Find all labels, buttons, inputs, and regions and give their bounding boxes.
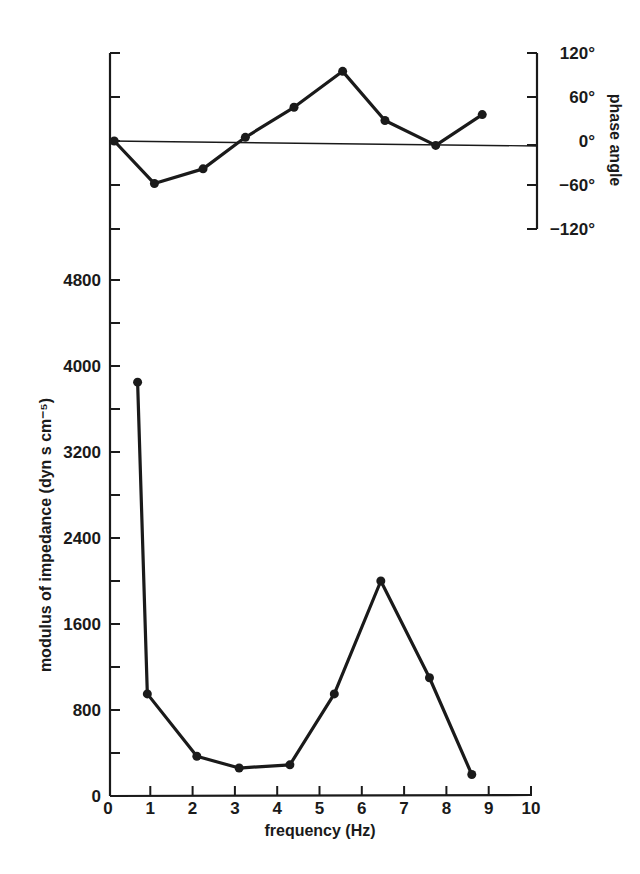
phase-line [114, 71, 482, 183]
modulus-tick-label: 800 [73, 701, 101, 720]
frequency-tick-label: 3 [230, 799, 239, 818]
data-point [235, 764, 244, 773]
data-point [380, 116, 389, 125]
frequency-tick-label: 10 [522, 799, 541, 818]
frequency-tick-label: 9 [484, 799, 493, 818]
data-point [192, 752, 201, 761]
frequency-tick-label: 1 [146, 799, 155, 818]
modulus-line [138, 382, 472, 774]
phase-tick-label: −60° [559, 176, 595, 195]
y-axis-title-modulus: modulus of impedance (dyn s cm⁻⁵) [37, 398, 54, 672]
modulus-tick-label: 0 [92, 787, 101, 806]
frequency-tick-label: 4 [272, 799, 282, 818]
data-point [425, 673, 434, 682]
data-point [431, 141, 440, 150]
data-point [199, 164, 208, 173]
impedance-chart: 120°60°0°−60°−120° 080016002400320040004… [0, 0, 640, 874]
frequency-tick-label: 6 [357, 799, 366, 818]
modulus-tick-label: 2400 [63, 529, 101, 548]
y-axis-title-phase: phase angle [607, 94, 624, 187]
modulus-tick-label: 1600 [63, 615, 101, 634]
zero-reference-line [110, 141, 537, 146]
frequency-tick-label: 5 [315, 799, 324, 818]
data-point [478, 110, 487, 119]
data-point [338, 67, 347, 76]
data-point [285, 760, 294, 769]
phase-tick-label: 60° [569, 88, 595, 107]
modulus-panel: 080016002400320040004800012345678910 [63, 250, 540, 818]
data-point [110, 137, 119, 146]
data-point [150, 179, 159, 188]
data-point [467, 770, 476, 779]
data-point [133, 378, 142, 387]
frequency-tick-label: 0 [103, 799, 112, 818]
phase-angle-panel: 120°60°0°−60°−120° [110, 44, 595, 250]
frequency-tick-label: 2 [188, 799, 197, 818]
modulus-tick-label: 4000 [63, 357, 101, 376]
phase-tick-label: 0° [579, 132, 595, 151]
data-point [376, 577, 385, 586]
phase-tick-label: 120° [560, 44, 595, 63]
data-point [330, 689, 339, 698]
data-point [143, 689, 152, 698]
data-point [290, 103, 299, 112]
data-point [241, 133, 250, 142]
x-axis-title: frequency (Hz) [264, 822, 375, 839]
frequency-tick-label: 7 [399, 799, 408, 818]
modulus-tick-label: 4800 [63, 271, 101, 290]
modulus-tick-label: 3200 [63, 443, 101, 462]
phase-tick-label: −120° [550, 220, 595, 239]
frequency-tick-label: 8 [442, 799, 451, 818]
